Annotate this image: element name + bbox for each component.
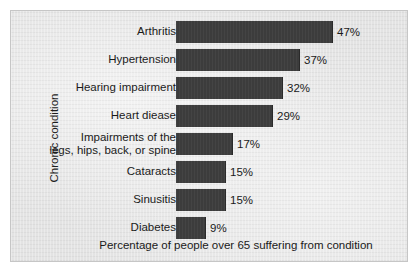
x-axis-title: Percentage of people over 65 suffering f… — [11, 239, 408, 251]
category-label: Hypertension — [26, 53, 176, 66]
bar[interactable] — [176, 77, 283, 99]
chart-figure: Chronic condition Arthritis 47% Hyperten… — [10, 10, 408, 262]
category-label: Diabetes — [26, 221, 176, 234]
category-label: Hearing impairment — [26, 81, 176, 94]
bar-value-label: 15% — [230, 161, 253, 183]
bar-row: Sinusitis 15% — [11, 189, 408, 211]
category-label: Sinusitis — [26, 193, 176, 206]
bar-row: Arthritis 47% — [11, 21, 408, 43]
bar-row: Diabetes 9% — [11, 217, 408, 239]
bar[interactable] — [176, 133, 233, 155]
bar-value-label: 47% — [337, 21, 360, 43]
bar-row: Cataracts 15% — [11, 161, 408, 183]
bar[interactable] — [176, 217, 206, 239]
bar-value-label: 9% — [210, 217, 227, 239]
bar[interactable] — [176, 49, 300, 71]
bar-row: Heart diease 29% — [11, 105, 408, 127]
category-label: Cataracts — [26, 165, 176, 178]
bar[interactable] — [176, 21, 333, 43]
category-label: Arthritis — [26, 25, 176, 38]
bar[interactable] — [176, 161, 226, 183]
bar-row: Hearing impairment 32% — [11, 77, 408, 99]
bar-value-label: 32% — [287, 77, 310, 99]
bar-value-label: 29% — [277, 105, 300, 127]
bar[interactable] — [176, 189, 226, 211]
category-label: Heart diease — [26, 109, 176, 122]
plot-area: Arthritis 47% Hypertension 37% Hearing i… — [11, 11, 408, 262]
bar-row: Impairments of the legs, hips, back, or … — [11, 133, 408, 155]
bar-value-label: 17% — [237, 133, 260, 155]
bar-row: Hypertension 37% — [11, 49, 408, 71]
bar[interactable] — [176, 105, 273, 127]
bar-value-label: 37% — [304, 49, 327, 71]
category-label: Impairments of the legs, hips, back, or … — [26, 131, 176, 156]
bar-value-label: 15% — [230, 189, 253, 211]
